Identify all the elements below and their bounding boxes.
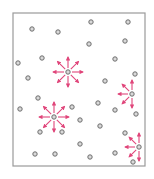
particle — [16, 61, 20, 65]
particle — [113, 108, 117, 112]
particle — [56, 30, 60, 34]
particle — [96, 101, 100, 105]
particle — [103, 79, 107, 83]
particle — [18, 107, 22, 111]
force-arrow-icon — [71, 75, 79, 83]
particle — [40, 56, 44, 60]
particle — [87, 42, 91, 46]
particles-layer — [16, 20, 141, 164]
emitting-particle — [137, 145, 141, 149]
particle-diagram — [0, 0, 154, 179]
force-arrow-icon — [57, 61, 65, 69]
particle — [78, 118, 82, 122]
particle — [133, 72, 137, 76]
emitting-particle — [52, 115, 56, 119]
emitting-particle — [130, 92, 134, 96]
force-arrow-icon — [57, 75, 65, 83]
particle — [123, 39, 127, 43]
force-arrow-icon — [122, 97, 129, 104]
force-arrow-icon — [57, 120, 65, 128]
particle — [26, 76, 30, 80]
particle — [113, 151, 117, 155]
particle — [126, 20, 130, 24]
arrows-layer — [39, 57, 139, 161]
particle — [70, 105, 74, 109]
particle — [88, 155, 92, 159]
particle — [98, 124, 102, 128]
particle — [134, 112, 138, 116]
particle — [131, 160, 135, 164]
force-arrow-icon — [43, 120, 51, 128]
particle — [36, 96, 40, 100]
particle — [123, 131, 127, 135]
force-arrow-icon — [43, 106, 51, 114]
force-arrow-icon — [129, 137, 136, 144]
force-arrow-icon — [122, 84, 129, 91]
particle — [53, 152, 57, 156]
force-arrow-icon — [57, 106, 65, 114]
particle — [78, 142, 82, 146]
particle — [60, 130, 64, 134]
particle — [33, 152, 37, 156]
force-arrow-icon — [129, 150, 136, 157]
particle — [30, 27, 34, 31]
particle — [89, 20, 93, 24]
emitting-particle — [66, 70, 70, 74]
particle — [38, 130, 42, 134]
particle — [113, 57, 117, 61]
force-arrow-icon — [71, 61, 79, 69]
